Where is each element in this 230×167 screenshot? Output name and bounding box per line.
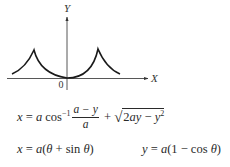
origin-label: 0 xyxy=(59,79,64,90)
formula-cycloid-explicit: x = a cos−1a − ya + √2ay − y2 xyxy=(17,105,164,131)
formula-parametric-y: y = a(1 − cos θ) xyxy=(142,143,221,156)
fraction-numerator: a − y xyxy=(72,104,98,118)
radicand-exponent: 2 xyxy=(160,109,164,118)
y-axis-label: Y xyxy=(64,2,72,14)
numerator-rest: − y xyxy=(79,103,98,115)
param-y-equals: = xyxy=(148,142,161,156)
square-root: √2ay − y2 xyxy=(114,109,164,124)
param-y-open-cos: (1 − cos xyxy=(167,142,211,156)
param-y-close: ) xyxy=(217,142,221,156)
param-x-equals: = xyxy=(23,142,36,156)
formula-parametric-x: x = a(θ + sin θ) xyxy=(17,143,94,156)
x-axis-label: X xyxy=(150,72,159,84)
param-x-plus-sin: + sin xyxy=(52,142,83,156)
inverse-exponent: −1 xyxy=(62,109,71,118)
equals-sign: = xyxy=(23,110,36,124)
fraction: a − ya xyxy=(72,104,98,130)
cycloid-curve xyxy=(12,49,120,78)
fraction-denominator: a xyxy=(72,118,98,131)
radicand-ay: ay xyxy=(130,110,142,124)
cos-function: cos xyxy=(42,110,62,124)
radicand-minus: − xyxy=(141,110,154,124)
plus-sign: + xyxy=(101,110,114,124)
cycloid-diagram: Y X 0 xyxy=(0,0,230,95)
radicand: 2ay − y2 xyxy=(122,108,164,124)
param-x-close: ) xyxy=(90,142,94,156)
radical-symbol: √ xyxy=(114,109,122,125)
